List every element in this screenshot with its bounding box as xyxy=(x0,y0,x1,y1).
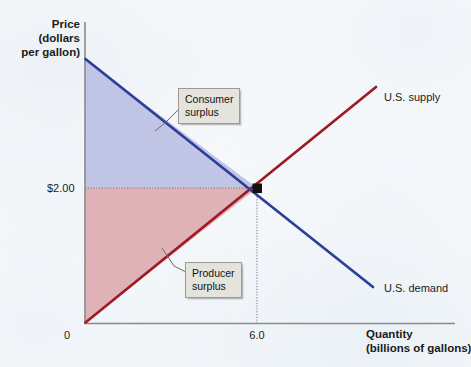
y-axis-title-line-3: per gallon) xyxy=(21,45,80,59)
equilibrium-point-marker xyxy=(253,184,263,194)
demand-curve-label: U.S. demand xyxy=(384,282,448,294)
producer-surplus-callout-line-2: surplus xyxy=(192,280,235,293)
y-axis-title-line-1: Price xyxy=(21,17,80,31)
origin-tick-label: 0 xyxy=(64,329,70,341)
y-axis-title: Price (dollars per gallon) xyxy=(21,17,80,59)
y-axis-title-line-2: (dollars xyxy=(21,31,80,45)
x-axis-tick-label-quantity: 6.0 xyxy=(249,329,264,341)
supply-curve-label: U.S. supply xyxy=(384,91,440,103)
producer-surplus-callout: Producer surplus xyxy=(185,262,242,298)
supply-demand-figure: Price (dollars per gallon) Quantity (bil… xyxy=(0,0,471,367)
consumer-surplus-callout-line-1: Consumer xyxy=(185,93,233,106)
consumer-surplus-callout: Consumer surplus xyxy=(178,88,240,124)
consumer-surplus-callout-line-2: surplus xyxy=(185,106,233,119)
y-axis-tick-label-price: $2.00 xyxy=(47,182,75,194)
producer-surplus-callout-line-1: Producer xyxy=(192,267,235,280)
